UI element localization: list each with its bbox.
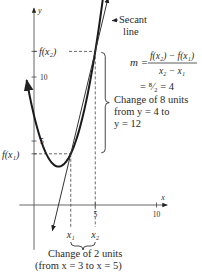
horizontal-change-line-2: (from x = 3 to x = 5) (35, 260, 122, 271)
x1-label: x₁ (66, 229, 75, 240)
x2-label: x₂ (90, 229, 99, 240)
secant-line (52, 0, 108, 231)
vertical-change-line-3: y = 12 (114, 118, 141, 129)
slope-value: = ⁸⁄₂ = 4 (140, 81, 174, 92)
secant-pointer-arrow (112, 20, 118, 21)
secant-label-1: Secant (119, 14, 147, 25)
y-axis-label: y (37, 6, 42, 15)
x-tick-label: 10 (153, 210, 161, 219)
parabola-curve (27, 0, 109, 167)
slope-denominator: x₂ − x₁ (158, 66, 185, 76)
slope-numerator: f(x₂) − f(x₁) (150, 51, 194, 62)
slope-lhs: m = (130, 56, 148, 68)
secant-label-2: line (123, 26, 139, 37)
vertical-change-line-2: from y = 4 to (114, 106, 170, 117)
vertical-change-brace (101, 52, 109, 152)
vertical-change-line-1: Change of 8 units (114, 94, 188, 105)
secant-line-figure: x y 510510 f(x₂) f(x₁) x₁ x₂ m = f(x₂) −… (0, 0, 202, 278)
fx2-label: f(x₂) (39, 46, 57, 58)
fx1-label: f(x₁) (2, 149, 20, 161)
y-tick-label: 10 (40, 73, 48, 82)
chart-plot: x y 510510 f(x₂) f(x₁) x₁ x₂ m = f(x₂) −… (0, 0, 202, 278)
x-axis-label: x (160, 193, 165, 202)
horizontal-change-line-1: Change of 2 units (48, 248, 122, 259)
